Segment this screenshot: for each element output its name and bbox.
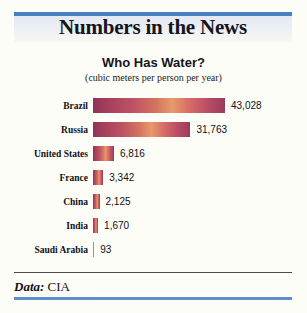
- masthead: Numbers in the News: [14, 12, 292, 42]
- bar-value-label: 93: [100, 243, 111, 256]
- bar-track: [93, 98, 225, 113]
- bar-fill: [93, 170, 103, 185]
- bar-fill: [93, 122, 190, 137]
- bar-row: Brazil43,028: [0, 96, 307, 120]
- bar-row: France3,342: [0, 168, 307, 192]
- bar-track: [93, 194, 100, 209]
- numbers-in-the-news-figure: Numbers in the News Who Has Water? (cubi…: [0, 0, 307, 313]
- bar-track: [93, 170, 103, 185]
- page-title: Numbers in the News: [14, 15, 292, 40]
- bar-category-label: China: [0, 196, 88, 208]
- bar-fill: [93, 218, 98, 233]
- bar-value-label: 43,028: [231, 99, 262, 112]
- bar-row: India1,670: [0, 216, 307, 240]
- bar-row: China2,125: [0, 192, 307, 216]
- data-source: Data: CIA: [14, 278, 292, 295]
- bar-track: [93, 242, 94, 257]
- bar-track: [93, 146, 114, 161]
- bar-row: Russia31,763: [0, 120, 307, 144]
- bar-fill: [93, 146, 114, 161]
- bar-value-label: 2,125: [106, 195, 131, 208]
- bar-category-label: India: [0, 220, 88, 232]
- bar-value-label: 6,816: [120, 147, 145, 160]
- footer-top-rule: [14, 272, 292, 273]
- data-source-value: CIA: [48, 279, 70, 294]
- bar-fill: [93, 242, 94, 257]
- bar-fill: [93, 98, 225, 113]
- bar-row: United States6,816: [0, 144, 307, 168]
- bar-track: [93, 218, 98, 233]
- data-source-label: Data:: [14, 279, 44, 294]
- bar-row: Saudi Arabia93: [0, 240, 307, 264]
- bar-category-label: United States: [0, 148, 88, 160]
- bar-chart-plot-area: Brazil43,028Russia31,763United States6,8…: [0, 96, 307, 266]
- bar-value-label: 31,763: [196, 123, 227, 136]
- bar-category-label: Brazil: [0, 100, 88, 112]
- footer-bottom-rule: [14, 297, 292, 300]
- bar-value-label: 3,342: [109, 171, 134, 184]
- bar-category-label: Saudi Arabia: [0, 244, 88, 256]
- bar-track: [93, 122, 190, 137]
- chart-title: Who Has Water?: [0, 55, 307, 70]
- bar-fill: [93, 194, 100, 209]
- bar-category-label: France: [0, 172, 88, 184]
- bar-category-label: Russia: [0, 124, 88, 136]
- bar-value-label: 1,670: [104, 219, 129, 232]
- chart-subtitle: (cubic meters per person per year): [0, 72, 307, 84]
